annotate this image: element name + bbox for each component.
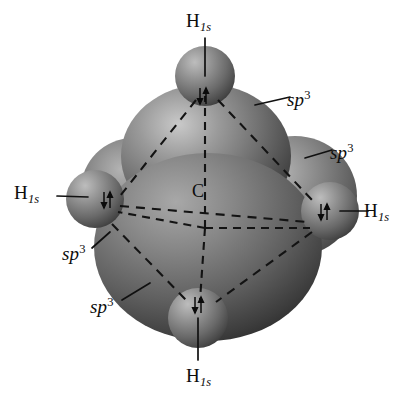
electron-spin-pair-top [195,86,211,106]
h1s-bottom-element: H [186,365,200,386]
sp3-upper-right-base: sp [287,89,304,110]
h1s-right-element: H [364,200,378,221]
carbon-symbol: C [192,181,204,201]
h1s-left-element: H [14,182,28,203]
h1s-top-subscript: 1s [200,20,211,34]
h1s-bottom-subscript: 1s [200,375,211,389]
label-h1s-left: H1s [14,183,39,205]
label-sp3-lower-left: sp3 [90,296,114,316]
sp3-upper-right-superscript: 3 [304,88,310,102]
label-h1s-right: H1s [364,201,389,223]
h1s-top-element: H [186,10,200,31]
leader-h1s-left [57,196,88,197]
label-sp3-upper-right: sp3 [287,89,311,109]
orbital-illustration [0,0,419,404]
sp3-left-superscript: 3 [79,242,85,256]
label-h1s-top: H1s [186,11,211,33]
label-h1s-bottom: H1s [186,366,211,388]
sp3-lower-left-base: sp [90,296,107,317]
label-sp3-right: sp3 [330,142,354,162]
h1s-left-subscript: 1s [28,192,39,206]
sp3-lower-left-superscript: 3 [107,295,113,309]
electron-spin-pair-right [316,202,332,222]
sp3-left-base: sp [62,243,79,264]
electron-spin-pair-left [99,190,115,210]
electron-spin-pair-bottom [190,295,206,315]
h1s-right-subscript: 1s [378,210,389,224]
methane-sp3-orbital-diagram: H1s H1s H1s H1s C sp3 sp3 sp3 sp3 [0,0,419,404]
hydrogen-sphere-left [66,170,124,228]
sp3-right-base: sp [330,142,347,163]
label-carbon-center: C [192,182,204,200]
label-sp3-left: sp3 [62,243,86,263]
sp3-right-superscript: 3 [347,141,353,155]
